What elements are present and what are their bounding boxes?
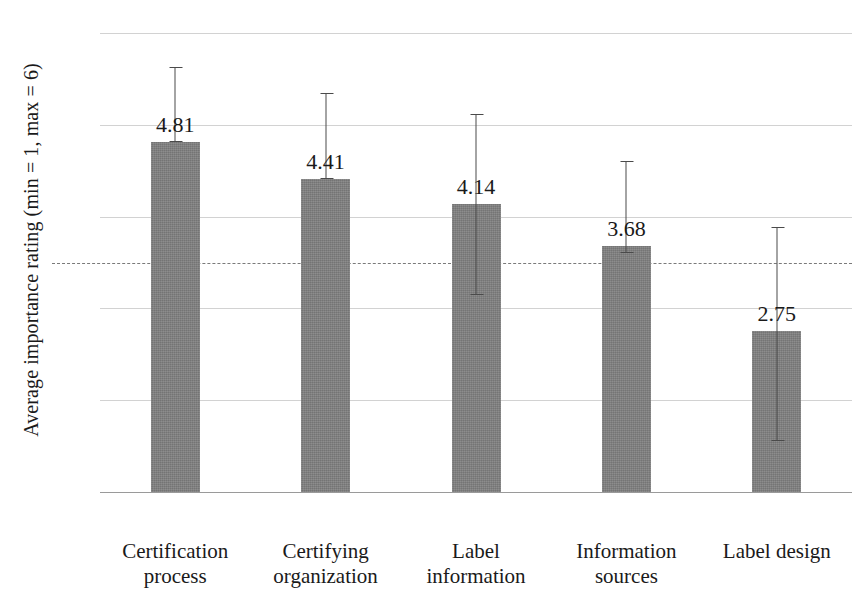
x-category-label: Label design [702,539,852,564]
bar-value-label: 2.75 [758,303,797,325]
x-category-label-line2: organization [250,564,400,589]
error-bar-cap-top [771,227,784,228]
x-category-label-line1: Information [551,539,701,564]
error-bar-cap-bottom [771,440,784,441]
error-bar-cap-top [320,93,333,94]
bar-group[interactable]: 4.41 [301,33,350,492]
x-category-label-line1: Label design [702,539,852,564]
x-category-label: Certifyingorganization [250,539,400,589]
x-category-label-line2: sources [551,564,701,589]
x-category-label: Certificationprocess [100,539,250,589]
bar-group[interactable]: 4.14 [452,33,501,492]
bar[interactable] [151,142,200,492]
error-bar-cap-bottom [170,141,183,142]
x-category-label-line2: information [401,564,551,589]
error-bar-cap-bottom [621,252,634,253]
error-bar-cap-bottom [471,294,484,295]
x-category-label-line1: Certification [100,539,250,564]
bar[interactable] [602,246,651,492]
error-bar [776,227,777,442]
bar-group[interactable]: 3.68 [602,33,651,492]
error-bar [476,114,477,295]
x-category-label-line1: Certifying [250,539,400,564]
error-bar-cap-top [170,67,183,68]
bar[interactable] [301,179,350,492]
x-category-label: Informationsources [551,539,701,589]
bar-value-label: 4.81 [156,114,195,136]
gridline-1 [100,492,852,493]
bar-group[interactable]: 2.75 [752,33,801,492]
bar-value-label: 3.68 [607,218,646,240]
y-axis-title: Average importance rating (min = 1, max … [10,0,52,500]
x-category-label: Labelinformation [401,539,551,589]
plot-area: 654321midpoint4.81Certificationprocess4.… [100,33,852,492]
bar-value-label: 4.14 [457,176,496,198]
bar-group[interactable]: 4.81 [151,33,200,492]
x-category-label-line2: process [100,564,250,589]
bar-value-label: 4.41 [306,151,345,173]
error-bar-cap-bottom [320,178,333,179]
x-category-label-line1: Label [401,539,551,564]
error-bar-cap-top [471,114,484,115]
error-bar-cap-top [621,161,634,162]
